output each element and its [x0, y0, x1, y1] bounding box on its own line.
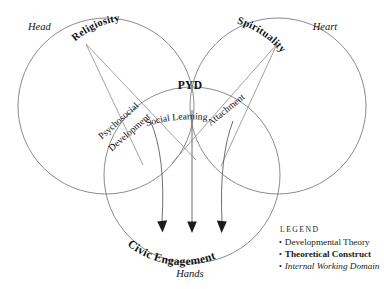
- legend-label-developmental-theory: Developmental Theory: [285, 237, 370, 248]
- bullet-icon: •: [279, 239, 282, 247]
- label-theory-attachment: Attachment: [205, 91, 247, 128]
- arrow-head-right: [217, 220, 227, 233]
- bullet-icon: •: [279, 263, 282, 271]
- circle-head: [18, 18, 194, 194]
- arrow-head-left: [157, 220, 167, 232]
- label-theory-social-learning: Social Learning: [144, 110, 208, 128]
- legend-item-theoretical-construct: • Theoretical Construct: [279, 249, 383, 260]
- legend-label-internal-working-domain: Internal Working Domain: [285, 261, 380, 272]
- label-construct-spirituality: Spirituality: [236, 15, 288, 55]
- bullet-icon: •: [279, 251, 282, 259]
- connectors-religiosity: [86, 44, 196, 165]
- label-domain-head: Head: [27, 21, 51, 32]
- legend-item-developmental-theory: • Developmental Theory: [279, 237, 383, 248]
- label-construct-civic-engagement: Civic Engagement: [126, 237, 217, 268]
- label-construct-religiosity: Religiosity: [70, 12, 121, 43]
- arrow-head-center: [187, 222, 197, 234]
- legend-label-theoretical-construct: Theoretical Construct: [285, 249, 371, 260]
- legend-item-internal-working-domain: • Internal Working Domain: [279, 261, 383, 272]
- label-domain-heart: Heart: [312, 21, 339, 32]
- label-construct-pyd: PYD: [178, 79, 203, 91]
- venn-diagram-figure: Head Heart Hands Religiosity Spiritualit…: [0, 0, 384, 289]
- legend: Legend • Developmental Theory • Theoreti…: [279, 225, 383, 273]
- label-domain-hands: Hands: [175, 268, 203, 279]
- arrows-to-civic-engagement: [150, 110, 233, 233]
- legend-title: Legend: [280, 225, 383, 234]
